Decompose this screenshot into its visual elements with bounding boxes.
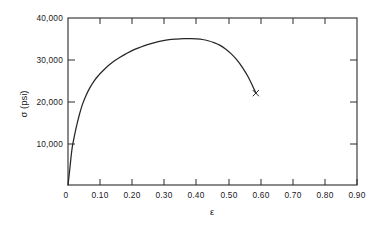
plot-frame: [68, 18, 357, 185]
right-axis-ticks: [350, 60, 357, 144]
x-tick-label-0-30: 0.30: [156, 190, 173, 200]
x-tick-label-0-50: 0.50: [221, 190, 238, 200]
x-tick-label-0: 0: [64, 190, 69, 200]
top-axis-ticks: [100, 18, 325, 24]
y-tick-label-30000: 30,000: [36, 55, 63, 65]
y-axis-title: σ (psi): [18, 91, 29, 118]
chart-canvas: 40,000 30,000 20,000 10,000 0 0.10 0.20 …: [0, 0, 375, 225]
stress-strain-chart-figure: 40,000 30,000 20,000 10,000 0 0.10 0.20 …: [0, 0, 375, 225]
fracture-point-marker: [253, 90, 259, 96]
x-tick-label-0-80: 0.80: [317, 190, 334, 200]
stress-strain-curve: [68, 39, 256, 185]
x-tick-label-0-40: 0.40: [188, 190, 205, 200]
y-tick-label-40000: 40,000: [36, 13, 63, 23]
x-tick-label-0-70: 0.70: [285, 190, 302, 200]
y-axis-ticks: [68, 60, 75, 144]
x-tick-label-0-90: 0.90: [349, 190, 366, 200]
x-tick-label-0-20: 0.20: [124, 190, 141, 200]
y-tick-label-20000: 20,000: [36, 97, 63, 107]
y-tick-label-10000: 10,000: [36, 139, 63, 149]
x-axis-title: ε: [210, 206, 215, 217]
x-tick-label-0-60: 0.60: [253, 190, 270, 200]
x-axis-ticks: [100, 179, 357, 185]
x-tick-label-0-10: 0.10: [92, 190, 109, 200]
